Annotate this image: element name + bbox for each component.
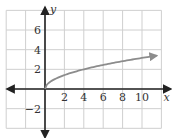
x-tick-label: 6	[100, 91, 107, 104]
y-tick-label: 6	[34, 24, 41, 37]
y-tick-label: 2	[34, 63, 41, 76]
x-tick-label: 2	[61, 91, 68, 104]
x-tick-label: 8	[119, 91, 126, 104]
x-tick-label: 10	[135, 91, 149, 104]
y-tick-label: 4	[34, 44, 41, 57]
y-axis-label: y	[49, 3, 57, 16]
series	[45, 56, 157, 89]
x-tick-label: 4	[80, 91, 87, 104]
curve-sqrt	[45, 56, 157, 89]
chart-canvas: 246810642−2 x y	[0, 0, 174, 138]
axes	[7, 7, 170, 137]
y-tick-label: −2	[25, 103, 41, 116]
x-axis-label: x	[163, 91, 170, 104]
